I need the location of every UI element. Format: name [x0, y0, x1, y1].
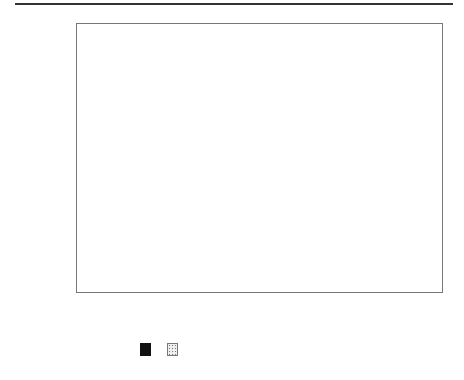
legend — [140, 343, 183, 356]
header-rule — [15, 3, 453, 5]
plot-area — [76, 23, 443, 293]
legend-swatch-level-prepay — [140, 343, 151, 356]
legend-swatch-better-home — [167, 343, 178, 356]
